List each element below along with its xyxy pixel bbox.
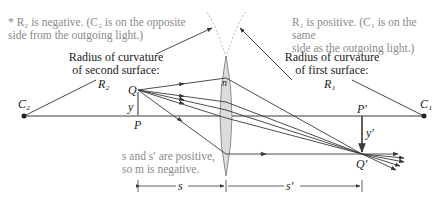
y-label: y (128, 101, 133, 114)
second-surface-label: Radius of curvature of second surface: (60, 51, 172, 77)
c1-label: C₁ (420, 98, 432, 111)
sign-note-line1: s and s′ are positive, (122, 150, 215, 163)
r2-note-line2: side from the outgoing light.) (8, 29, 186, 42)
sign-note-line2: so m is negative. (122, 163, 215, 176)
p-label: P (134, 119, 141, 132)
center-c1-dot (422, 114, 427, 119)
r2-symbol: R₂ (98, 78, 110, 91)
c2-label: C₂ (18, 98, 30, 111)
s-label: s (178, 180, 183, 193)
r2-note-line1: * R₂ is negative. (C₂ is on the opposite (8, 16, 186, 29)
radius-r2-line (24, 80, 96, 116)
s-prime-label: s′ (286, 180, 293, 193)
q-prime-label: Q′ (356, 158, 367, 171)
curvature-guide-lines (207, 12, 245, 58)
dimension-lines (138, 180, 362, 192)
first-surface-label: Radius of curvature of first surface: (276, 51, 388, 77)
center-c2-dot (22, 114, 27, 119)
r1-symbol: R₁ (324, 78, 336, 91)
r2-sign-note: * R₂ is negative. (C₂ is on the opposite… (8, 16, 186, 42)
q-label: Q (128, 84, 137, 97)
lens (220, 56, 232, 176)
second-surface-line2: of second surface: (60, 64, 172, 77)
n-label: n (222, 76, 227, 89)
y-prime-label: y′ (366, 127, 374, 140)
p-prime-label: P′ (357, 103, 367, 116)
sign-convention-note: s and s′ are positive, so m is negative. (122, 150, 215, 176)
r1-note-line1: R₁ is positive. (C₁ is on the same (292, 16, 443, 42)
first-surface-line2: of first surface: (276, 64, 388, 77)
